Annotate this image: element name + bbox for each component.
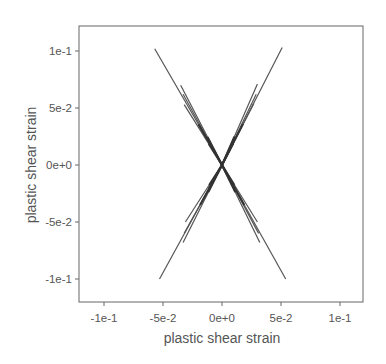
plot-lines	[155, 48, 286, 279]
data-line-core	[222, 143, 233, 165]
y-tick-label: 0e+0	[46, 159, 72, 171]
data-line-core	[222, 165, 235, 192]
x-tick-label: -1e-1	[91, 312, 118, 324]
y-axis-label: plastic shear strain	[23, 107, 39, 224]
data-line-core	[208, 165, 222, 192]
x-tick-label: 1e-1	[328, 312, 351, 324]
x-tick-label: 5e-2	[269, 312, 292, 324]
x-axis: -1e-1-5e-20e+05e-21e-1	[91, 302, 352, 324]
x-tick-label: 0e+0	[209, 312, 235, 324]
x-tick-label: -5e-2	[150, 312, 177, 324]
y-tick-label: -1e-1	[45, 273, 72, 285]
x-axis-label: plastic shear strain	[164, 330, 281, 346]
data-line-core	[209, 144, 222, 165]
y-tick-label: 5e-2	[49, 102, 72, 114]
y-axis: -1e-1-5e-20e+05e-21e-1	[45, 45, 79, 285]
y-tick-label: -5e-2	[45, 216, 72, 228]
chart: -1e-1-5e-20e+05e-21e-1 -1e-1-5e-20e+05e-…	[0, 0, 386, 364]
y-tick-label: 1e-1	[49, 45, 72, 57]
